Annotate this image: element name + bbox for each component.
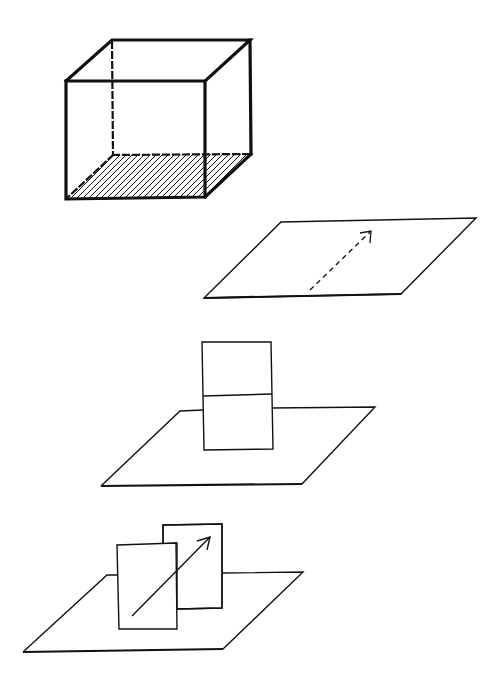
plane-arrow-figure [204, 218, 476, 298]
plane-front-edge [101, 484, 302, 486]
cube-figure [40, 40, 274, 205]
plane-left-edge [23, 575, 117, 652]
plane-right-edge [272, 407, 375, 484]
dashed-arrow-shaft [310, 232, 370, 290]
plane-right-edge [222, 572, 303, 649]
plane-two-rectangles-figure [23, 524, 303, 652]
front-rectangle [117, 543, 177, 629]
plane-front-edge [23, 649, 223, 652]
plane-left-edge [101, 410, 203, 486]
plane [204, 218, 476, 298]
diagram-canvas [0, 0, 504, 687]
plane-front-edge [204, 294, 401, 298]
plane-rectangle-figure [101, 342, 375, 486]
